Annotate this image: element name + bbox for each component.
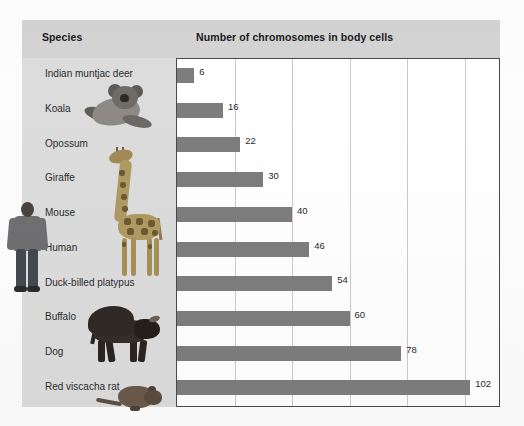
bar-opossum[interactable] <box>177 137 240 152</box>
bar-dog[interactable] <box>177 346 401 361</box>
chart-row: 60 <box>177 302 499 337</box>
species-label-indian-muntjac-deer: Indian muntjac deer <box>45 68 133 79</box>
bar-value-label: 102 <box>475 378 491 389</box>
species-label-duck-billed-platypus: Duck-billed platypus <box>45 277 135 288</box>
bar-koala[interactable] <box>177 103 223 118</box>
bar-chart-plot-area: 61622304046546078102 <box>176 58 500 407</box>
bar-value-label: 22 <box>245 135 256 146</box>
bar-value-label: 54 <box>337 274 348 285</box>
species-label-koala: Koala <box>45 103 71 114</box>
bar-buffalo[interactable] <box>177 311 350 326</box>
chart-row: 78 <box>177 337 499 372</box>
bar-value-label: 6 <box>199 66 204 77</box>
chart-row: 102 <box>177 371 499 406</box>
species-label-red-viscacha-rat: Red viscacha rat <box>45 381 119 392</box>
chart-row: 6 <box>177 59 499 94</box>
plot-inner: 61622304046546078102 <box>177 59 499 406</box>
species-label-opossum: Opossum <box>45 138 88 149</box>
chart-row: 54 <box>177 267 499 302</box>
bar-red-viscacha-rat[interactable] <box>177 380 470 395</box>
bar-indian-muntjac-deer[interactable] <box>177 68 194 83</box>
bar-value-label: 60 <box>355 309 366 320</box>
bar-value-label: 46 <box>314 240 325 251</box>
species-label-buffalo: Buffalo <box>45 311 76 322</box>
species-label-giraffe: Giraffe <box>45 172 75 183</box>
chart-row: 46 <box>177 233 499 268</box>
species-label-human: Human <box>45 242 77 253</box>
chart-row: 22 <box>177 128 499 163</box>
bar-value-label: 78 <box>406 344 417 355</box>
bar-mouse[interactable] <box>177 207 292 222</box>
bar-giraffe[interactable] <box>177 172 263 187</box>
chart-row: 16 <box>177 94 499 129</box>
bar-value-label: 30 <box>268 170 279 181</box>
species-column-header: Species <box>42 31 82 43</box>
species-label-dog: Dog <box>45 346 63 357</box>
chromosome-count-figure: Species Number of chromosomes in body ce… <box>0 0 524 426</box>
chart-column-header: Number of chromosomes in body cells <box>196 31 393 43</box>
bar-value-label: 16 <box>228 101 239 112</box>
bar-duck-billed-platypus[interactable] <box>177 276 332 291</box>
species-label-mouse: Mouse <box>45 207 75 218</box>
bar-human[interactable] <box>177 242 309 257</box>
chart-row: 30 <box>177 163 499 198</box>
bar-value-label: 40 <box>297 205 308 216</box>
chart-row: 40 <box>177 198 499 233</box>
